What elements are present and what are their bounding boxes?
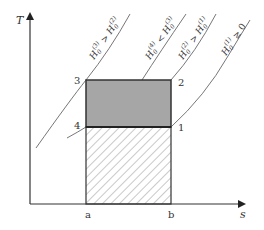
point-2-label: 2 [178, 77, 184, 88]
point-3-label: 3 [74, 75, 80, 86]
svg-text:H0(2) > H0(1): H0(2) > H0(1) [173, 14, 212, 63]
point-4-label: 4 [74, 120, 80, 131]
svg-text:H0(4) < H0(3): H0(4) < H0(3) [140, 14, 179, 63]
tick-b-label: b [168, 209, 174, 220]
curve-label-h4: H0(4) < H0(3) [140, 14, 179, 63]
tick-a-label: a [85, 209, 91, 220]
svg-text:H0(1) ≥ 0: H0(1) ≥ 0 [216, 20, 249, 59]
y-axis-label: T [16, 14, 25, 27]
curve-label-h2: H0(2) > H0(1) [173, 14, 212, 63]
curve-label-h1: H0(1) ≥ 0 [216, 20, 249, 59]
gray-region [86, 80, 171, 127]
point-1-label: 1 [178, 122, 184, 133]
x-axis-label: s [240, 208, 246, 221]
ts-diagram: T s a b 1 2 3 4 H0(3) > H0(2) H0(4) < H0… [0, 0, 264, 230]
hatched-region [86, 127, 171, 204]
